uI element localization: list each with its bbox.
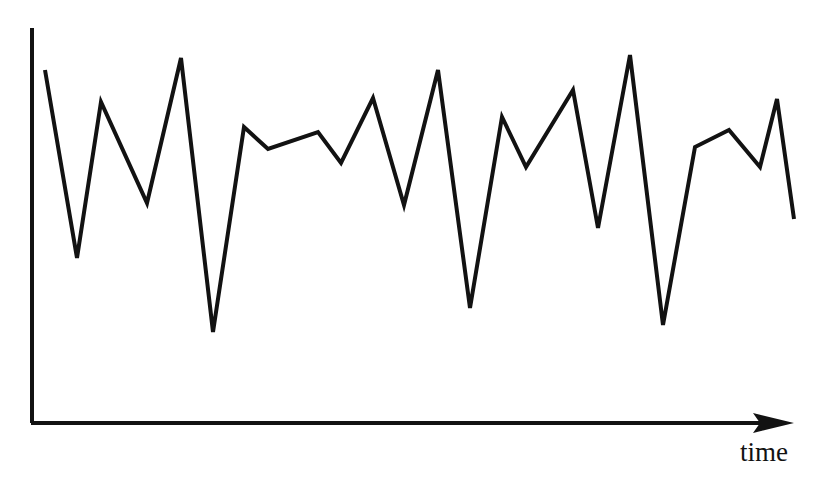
line-chart: time bbox=[0, 0, 821, 482]
series-value-line bbox=[45, 55, 794, 332]
figure-canvas: time bbox=[0, 0, 821, 482]
data-series-group bbox=[45, 55, 794, 332]
x-axis-label: time bbox=[740, 437, 788, 467]
